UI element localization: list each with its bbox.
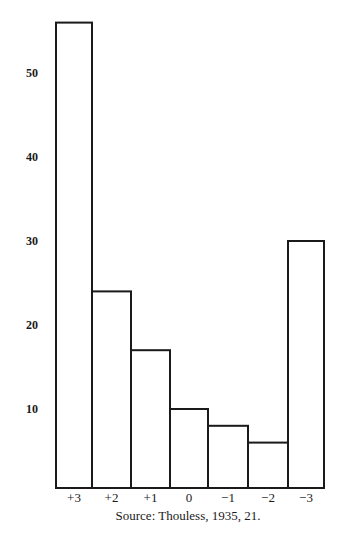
y-tick-label: 50: [26, 66, 38, 80]
y-tick-label: 40: [26, 150, 38, 164]
y-tick-label: 10: [26, 402, 38, 416]
bar: [288, 241, 324, 488]
bar: [56, 23, 92, 488]
bar: [92, 291, 131, 488]
bar: [170, 409, 208, 488]
x-tick-label: +3: [67, 490, 81, 505]
x-tick-label: 0: [186, 490, 193, 505]
x-tick-label: −1: [221, 490, 235, 505]
y-axis-tick-labels: 1020304050: [26, 66, 38, 416]
source-caption: Source: Thouless, 1935, 21.: [0, 508, 344, 524]
bar: [131, 350, 170, 488]
y-tick-label: 20: [26, 318, 38, 332]
histogram-chart: 1020304050 +3+2+10−1−2−3: [0, 0, 344, 533]
x-tick-label: +1: [144, 490, 158, 505]
y-tick-label: 30: [26, 234, 38, 248]
bar: [248, 443, 288, 488]
x-axis-tick-labels: +3+2+10−1−2−3: [67, 490, 313, 505]
x-tick-label: −2: [261, 490, 275, 505]
x-tick-label: −3: [299, 490, 313, 505]
x-tick-label: +2: [105, 490, 119, 505]
bar: [208, 426, 248, 488]
bars: [56, 23, 324, 488]
